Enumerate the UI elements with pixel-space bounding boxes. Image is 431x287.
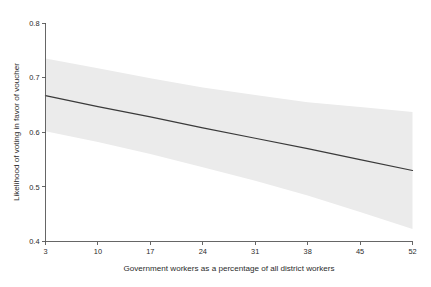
- x-tick-label: 24: [199, 247, 207, 256]
- y-tick-label: 0.5: [29, 183, 39, 192]
- y-axis-title: Likelihood of voting in favor of voucher: [12, 63, 21, 201]
- x-axis-title: Government workers as a percentage of al…: [124, 264, 335, 273]
- x-tick-label: 31: [251, 247, 259, 256]
- y-tick-label: 0.8: [29, 19, 39, 28]
- x-tick-label: 52: [408, 247, 416, 256]
- x-tick-label: 10: [94, 247, 102, 256]
- x-tick-label: 17: [146, 247, 154, 256]
- y-tick-label: 0.4: [29, 237, 39, 246]
- chart-container: 0.40.50.60.70.8 310172431384552 Governme…: [0, 0, 431, 287]
- x-tick-label: 38: [304, 247, 312, 256]
- y-tick-label: 0.7: [29, 73, 39, 82]
- voucher-support-line-chart: 0.40.50.60.70.8 310172431384552 Governme…: [0, 0, 431, 287]
- x-tick-label: 3: [43, 247, 47, 256]
- y-tick-label: 0.6: [29, 128, 39, 137]
- x-tick-label: 45: [356, 247, 364, 256]
